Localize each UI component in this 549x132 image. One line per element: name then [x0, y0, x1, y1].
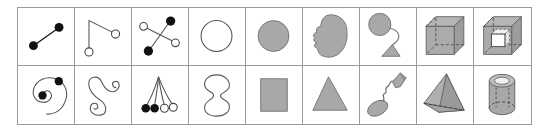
line-with-two-filled-dots-icon — [18, 8, 74, 65]
cell-cylinder: gray cylinder with dashed hidden base — [474, 66, 531, 124]
cell-spiral-two-filled-dots: spiral with filled dot at center and at … — [18, 66, 75, 124]
ellipse-wavy-tail-kite-icon — [360, 66, 416, 124]
cell-fan-four-dots: fan of four strands: two filled and two … — [132, 66, 189, 124]
cylinder-icon — [474, 66, 531, 124]
cube-with-inner-cube-icon — [474, 8, 531, 65]
circle-outline-icon — [189, 8, 245, 65]
shape-grid-figure: segment with two filled endpoint dots be… — [0, 0, 549, 132]
bent-line-two-open-dots-icon — [75, 8, 131, 65]
cell-circle-with-stem-and-base: gray circle joined by curved stem to tri… — [360, 8, 417, 66]
rectangle-filled-icon — [246, 66, 302, 124]
cross-four-dots-icon — [132, 8, 188, 65]
tetrahedron-icon — [417, 66, 473, 124]
cell-circle-filled: solid gray circle — [246, 8, 303, 66]
hourglass-outline-icon — [189, 66, 245, 124]
cell-cross-four-dots: X cross with two filled and two open dot… — [132, 8, 189, 66]
irregular-blob-icon — [303, 8, 359, 65]
cell-triangle-filled: solid gray triangle — [303, 66, 360, 124]
circle-with-stem-and-base-icon — [360, 8, 416, 65]
circle-filled-icon — [246, 8, 302, 65]
triangle-filled-icon — [303, 66, 359, 124]
cell-ellipse-wavy-tail-kite: gray ellipse joined by wavy line to arro… — [360, 66, 417, 124]
cell-line-with-two-filled-dots: segment with two filled endpoint dots — [18, 8, 75, 66]
shape-grid: segment with two filled endpoint dots be… — [17, 7, 532, 125]
cell-s-curve-two-curls: S curve with small curled loops at both … — [75, 66, 132, 124]
wireframe-cube-icon — [417, 8, 473, 65]
cell-bent-line-two-open-dots: bent polyline with two open endpoint cir… — [75, 8, 132, 66]
cell-circle-outline: circle outline — [189, 8, 246, 66]
cell-wireframe-cube: gray cube with dashed hidden edges — [417, 8, 474, 66]
fan-four-dots-icon — [132, 66, 188, 124]
spiral-two-filled-dots-icon — [18, 66, 74, 124]
s-curve-two-curls-icon — [75, 66, 131, 124]
cell-cube-with-inner-cube: gray cube containing a smaller hollow cu… — [474, 8, 531, 66]
cell-irregular-blob: irregular gray blob — [303, 8, 360, 66]
cell-tetrahedron: gray tetrahedron with dashed hidden edge — [417, 66, 474, 124]
cell-hourglass-outline: peanut / hourglass outline — [189, 66, 246, 124]
cell-rectangle-filled: solid gray rectangle — [246, 66, 303, 124]
